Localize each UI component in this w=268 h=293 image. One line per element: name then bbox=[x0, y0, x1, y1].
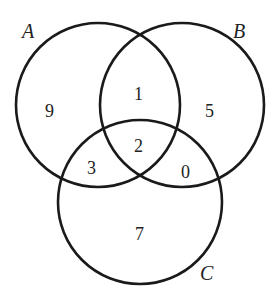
region-a-and-c: 3 bbox=[87, 158, 96, 178]
region-a-only: 9 bbox=[45, 101, 54, 121]
region-a-and-b: 1 bbox=[134, 84, 143, 104]
set-a-label: A bbox=[20, 20, 35, 42]
region-c-only: 7 bbox=[135, 224, 144, 244]
set-c-label: C bbox=[200, 262, 214, 284]
venn-diagram: A B C 9 1 5 2 3 0 7 bbox=[0, 0, 268, 293]
region-a-b-c: 2 bbox=[134, 136, 143, 156]
set-a-circle bbox=[16, 23, 180, 187]
region-b-only: 5 bbox=[205, 101, 214, 121]
set-b-label: B bbox=[233, 20, 245, 42]
region-b-and-c: 0 bbox=[181, 162, 190, 182]
